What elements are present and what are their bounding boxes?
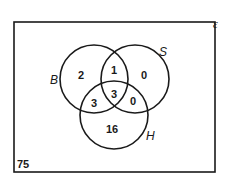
region-b-and-s: 1 [111,64,117,76]
outside-count: 75 [17,158,29,170]
region-h-only: 16 [106,123,118,135]
region-b-and-h: 3 [91,97,97,109]
region-s-only: 0 [141,69,147,81]
set-s-label: S [159,45,167,59]
set-h-label: H [146,129,155,143]
universal-set-symbol: ε [213,17,218,31]
region-b-s-h: 3 [111,88,117,100]
set-b-label: B [50,73,58,87]
venn-diagram: ε B S H 2 1 0 3 3 0 16 75 [0,0,231,183]
region-s-and-h: 0 [130,95,136,107]
region-b-only: 2 [78,69,84,81]
